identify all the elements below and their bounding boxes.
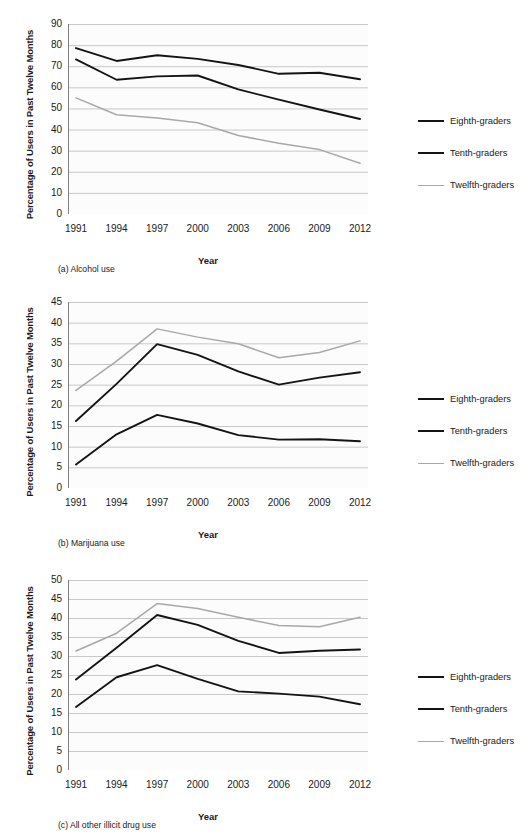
chart-panel-marijuana-use: Percentage of Users in Past Twelve Month…: [0, 280, 529, 556]
y-axis-tick-label: 40: [36, 318, 62, 328]
y-axis-tick-label: 35: [36, 338, 62, 348]
plot-area-alcohol-use: [68, 24, 368, 214]
legend-item-twelfth-graders[interactable]: Twelfth-graders: [418, 734, 514, 748]
y-axis-tick-label: 45: [36, 297, 62, 307]
plot-svg-other-illicit-drug-use: [68, 580, 368, 770]
y-axis-tick-label: 25: [36, 380, 62, 390]
y-axis-tick-label: 10: [36, 727, 62, 737]
y-axis-tick-label: 50: [36, 103, 62, 113]
y-axis-tick-label: 0: [36, 765, 62, 775]
legend-line-icon-eighth-graders: [418, 676, 444, 678]
legend-marijuana-use: Eighth-graders Tenth-graders Twelfth-gra…: [418, 392, 514, 488]
x-axis-tick-label: 1994: [97, 780, 137, 790]
x-axis-tick-label: 2006: [259, 780, 299, 790]
y-axis-tick-label: 30: [36, 359, 62, 369]
y-axis-tick-label: 30: [36, 651, 62, 661]
y-axis-tick-label: 15: [36, 421, 62, 431]
y-axis-tick-label: 70: [36, 61, 62, 71]
x-axis-tick-label: 2006: [259, 498, 299, 508]
x-axis-title: Year: [148, 811, 268, 822]
y-axis-tick-label: 5: [36, 746, 62, 756]
y-axis-tick-label: 30: [36, 146, 62, 156]
legend-label-eighth-graders: Eighth-graders: [450, 116, 511, 126]
legend-line-icon-tenth-graders: [418, 152, 444, 154]
legend-label-tenth-graders: Tenth-graders: [450, 148, 507, 158]
x-axis-tick-label: 2012: [340, 224, 380, 234]
legend-item-tenth-graders[interactable]: Tenth-graders: [418, 702, 514, 716]
x-axis-title: Year: [148, 529, 268, 540]
legend-label-tenth-graders: Tenth-graders: [450, 426, 507, 436]
y-axis-tick-label: 80: [36, 40, 62, 50]
y-axis-tick-label: 20: [36, 400, 62, 410]
y-axis-tick-label: 45: [36, 594, 62, 604]
plot-area-other-illicit-drug-use: [68, 580, 368, 770]
y-axis-tick-label: 35: [36, 632, 62, 642]
y-axis-tick-label: 0: [36, 209, 62, 219]
x-axis-tick-label: 2012: [340, 498, 380, 508]
legend-label-twelfth-graders: Twelfth-graders: [450, 180, 514, 190]
legend-item-twelfth-graders[interactable]: Twelfth-graders: [418, 456, 514, 470]
legend-label-eighth-graders: Eighth-graders: [450, 672, 511, 682]
x-axis-tick-label: 1991: [56, 780, 96, 790]
x-axis-tick-label: 2003: [218, 780, 258, 790]
legend-alcohol-use: Eighth-graders Tenth-graders Twelfth-gra…: [418, 114, 514, 210]
plot-svg-marijuana-use: [68, 302, 368, 488]
x-axis-tick-label: 2003: [218, 498, 258, 508]
legend-item-eighth-graders[interactable]: Eighth-graders: [418, 114, 514, 128]
plot-svg-alcohol-use: [68, 24, 368, 214]
x-axis-tick-label: 2006: [259, 224, 299, 234]
y-axis-tick-label: 15: [36, 708, 62, 718]
x-axis-tick-label: 2000: [178, 780, 218, 790]
legend-item-tenth-graders[interactable]: Tenth-graders: [418, 424, 514, 438]
legend-label-twelfth-graders: Twelfth-graders: [450, 736, 514, 746]
panel-caption: (a) Alcohol use: [58, 264, 115, 274]
x-axis-tick-label: 2009: [299, 780, 339, 790]
legend-item-tenth-graders[interactable]: Tenth-graders: [418, 146, 514, 160]
legend-label-tenth-graders: Tenth-graders: [450, 704, 507, 714]
legend-item-twelfth-graders[interactable]: Twelfth-graders: [418, 178, 514, 192]
y-axis-tick-label: 10: [36, 442, 62, 452]
legend-line-icon-eighth-graders: [418, 398, 444, 400]
x-axis-tick-label: 2000: [178, 498, 218, 508]
x-axis-tick-label: 1991: [56, 224, 96, 234]
legend-item-eighth-graders[interactable]: Eighth-graders: [418, 392, 514, 406]
y-axis-tick-label: 90: [36, 19, 62, 29]
legend-line-icon-tenth-graders: [418, 708, 444, 710]
y-axis-tick-label: 40: [36, 613, 62, 623]
x-axis-tick-label: 2012: [340, 780, 380, 790]
x-axis-tick-label: 2000: [178, 224, 218, 234]
x-axis-title: Year: [148, 255, 268, 266]
legend-other-illicit-drug-use: Eighth-graders Tenth-graders Twelfth-gra…: [418, 670, 514, 766]
legend-item-eighth-graders[interactable]: Eighth-graders: [418, 670, 514, 684]
legend-label-twelfth-graders: Twelfth-graders: [450, 458, 514, 468]
panel-caption: (b) Marijuana use: [58, 538, 125, 548]
y-axis-tick-label: 5: [36, 462, 62, 472]
x-axis-tick-label: 1997: [137, 498, 177, 508]
y-axis-tick-label: 20: [36, 689, 62, 699]
y-axis-tick-label: 40: [36, 125, 62, 135]
legend-label-eighth-graders: Eighth-graders: [450, 394, 511, 404]
x-axis-tick-label: 1997: [137, 224, 177, 234]
y-axis-tick-label: 10: [36, 188, 62, 198]
plot-area-marijuana-use: [68, 302, 368, 488]
chart-panel-alcohol-use: Percentage of Users in Past Twelve Month…: [0, 0, 529, 280]
x-axis-tick-label: 2009: [299, 498, 339, 508]
x-axis-tick-label: 1994: [97, 224, 137, 234]
x-axis-tick-label: 2009: [299, 224, 339, 234]
y-axis-tick-label: 20: [36, 167, 62, 177]
legend-line-icon-tenth-graders: [418, 430, 444, 432]
chart-panel-other-illicit-drug-use: Percentage of Users in Past Twelve Month…: [0, 556, 529, 836]
y-axis-tick-label: 25: [36, 670, 62, 680]
legend-line-icon-twelfth-graders: [418, 185, 444, 186]
y-axis-tick-label: 50: [36, 575, 62, 585]
x-axis-tick-label: 2003: [218, 224, 258, 234]
y-axis-tick-label: 60: [36, 82, 62, 92]
legend-line-icon-twelfth-graders: [418, 741, 444, 742]
x-axis-tick-label: 1994: [97, 498, 137, 508]
x-axis-tick-label: 1997: [137, 780, 177, 790]
panel-caption: (c) All other illicit drug use: [58, 820, 156, 830]
x-axis-tick-label: 1991: [56, 498, 96, 508]
legend-line-icon-twelfth-graders: [418, 463, 444, 464]
y-axis-tick-label: 0: [36, 483, 62, 493]
legend-line-icon-eighth-graders: [418, 120, 444, 122]
